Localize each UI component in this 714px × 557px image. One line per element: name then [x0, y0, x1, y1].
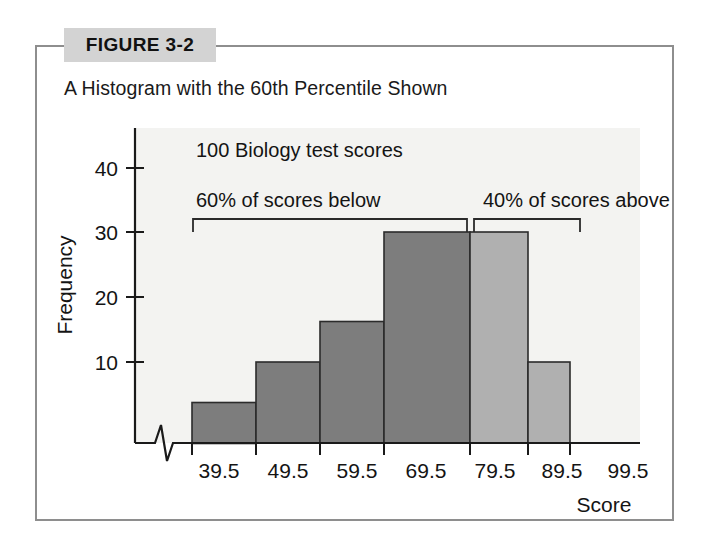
figure-number-label: FIGURE 3-2 — [86, 34, 195, 56]
figure-frame — [35, 45, 674, 521]
figure-number-tab: FIGURE 3-2 — [64, 28, 216, 62]
figure-caption: A Histogram with the 60th Percentile Sho… — [64, 77, 448, 100]
